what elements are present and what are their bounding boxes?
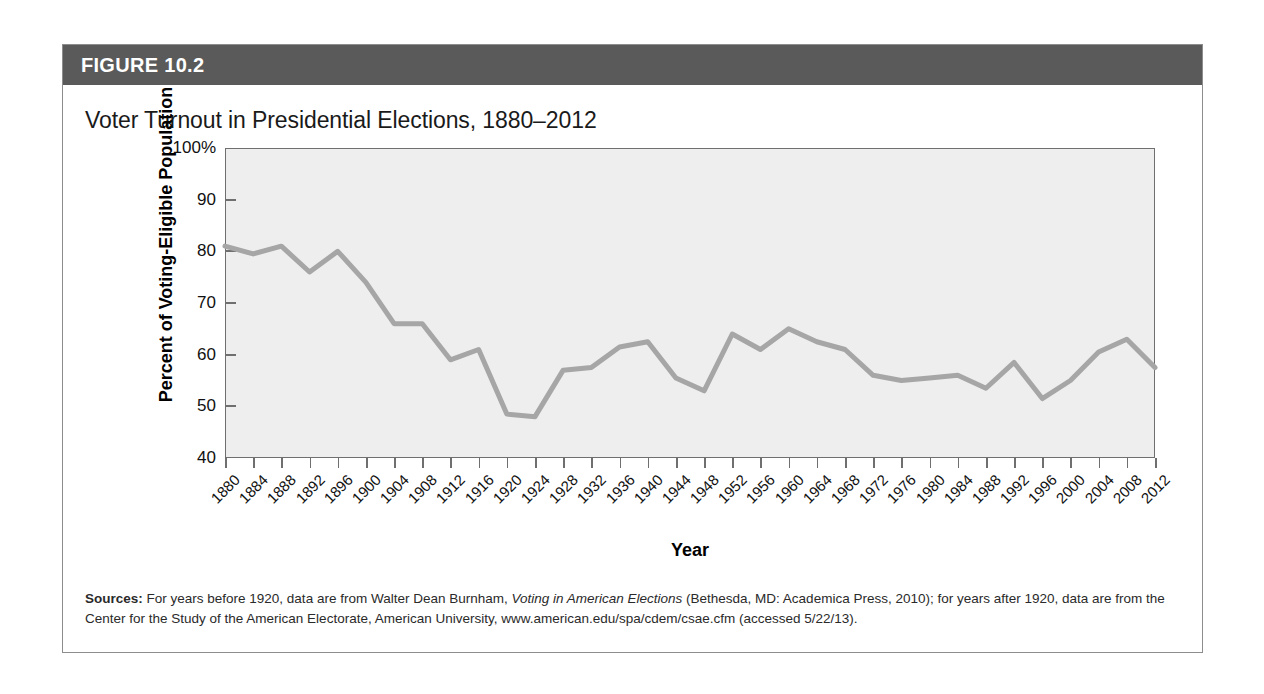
x-tick-mark	[591, 458, 593, 468]
x-tick-label: 1880	[207, 471, 243, 507]
x-tick-label: 1896	[320, 471, 356, 507]
y-tick-label: 80	[197, 241, 216, 261]
x-tick-label: 1884	[236, 471, 272, 507]
x-tick-label: 1976	[884, 471, 920, 507]
x-tick-mark	[1070, 458, 1072, 468]
x-tick-label: 1940	[630, 471, 666, 507]
turnout-line-series	[225, 148, 1155, 458]
x-tick-label: 1996	[1025, 471, 1061, 507]
figure-card: FIGURE 10.2 Voter Turnout in Presidentia…	[62, 44, 1203, 653]
y-tick-label: 90	[197, 190, 216, 210]
source-italic-title: Voting in American Elections	[511, 591, 682, 606]
x-tick-mark	[281, 458, 283, 468]
x-tick-label: 1932	[574, 471, 610, 507]
source-note: Sources: For years before 1920, data are…	[85, 589, 1180, 628]
x-tick-label: 1888	[264, 471, 300, 507]
x-tick-label: 1900	[348, 471, 384, 507]
x-tick-label: 1964	[799, 471, 835, 507]
plot-region: 405060708090100%188018841888189218961900…	[225, 148, 1155, 458]
x-tick-label: 1944	[658, 471, 694, 507]
x-tick-label: 1952	[715, 471, 751, 507]
x-tick-label: 1956	[743, 471, 779, 507]
x-tick-mark	[563, 458, 565, 468]
x-tick-label: 1936	[602, 471, 638, 507]
x-tick-label: 1968	[827, 471, 863, 507]
x-tick-label: 1908	[405, 471, 441, 507]
figure-header-bar: FIGURE 10.2	[63, 45, 1202, 85]
x-tick-label: 2008	[1109, 471, 1145, 507]
y-tick-label: 60	[197, 345, 216, 365]
x-axis-title: Year	[225, 540, 1155, 561]
y-axis-title: Percent of Voting-Eligible Population	[156, 80, 177, 410]
x-tick-mark	[1155, 458, 1157, 468]
x-tick-label: 1992	[996, 471, 1032, 507]
x-tick-mark	[535, 458, 537, 468]
x-tick-mark	[789, 458, 791, 468]
x-tick-label: 1984	[940, 471, 976, 507]
x-tick-mark	[310, 458, 312, 468]
x-tick-mark	[422, 458, 424, 468]
x-tick-mark	[225, 458, 227, 468]
x-tick-label: 1904	[376, 471, 412, 507]
x-tick-mark	[338, 458, 340, 468]
x-tick-label: 1988	[968, 471, 1004, 507]
x-tick-mark	[479, 458, 481, 468]
x-tick-mark	[1099, 458, 1101, 468]
x-tick-mark	[507, 458, 509, 468]
x-tick-mark	[986, 458, 988, 468]
x-tick-mark	[394, 458, 396, 468]
x-tick-label: 1912	[433, 471, 469, 507]
x-tick-mark	[648, 458, 650, 468]
x-tick-label: 1916	[461, 471, 497, 507]
x-tick-mark	[704, 458, 706, 468]
x-tick-label: 1892	[292, 471, 328, 507]
x-tick-mark	[1042, 458, 1044, 468]
x-tick-mark	[253, 458, 255, 468]
x-tick-mark	[1014, 458, 1016, 468]
x-tick-mark	[620, 458, 622, 468]
source-label: Sources:	[85, 591, 143, 606]
x-tick-label: 1924	[517, 471, 553, 507]
figure-number-label: FIGURE 10.2	[81, 54, 204, 77]
x-tick-mark	[958, 458, 960, 468]
y-tick-label: 50	[197, 396, 216, 416]
x-tick-mark	[930, 458, 932, 468]
x-tick-mark	[366, 458, 368, 468]
x-tick-label: 1948	[686, 471, 722, 507]
figure-title: Voter Turnout in Presidential Elections,…	[63, 85, 1202, 134]
x-tick-mark	[450, 458, 452, 468]
x-tick-label: 2000	[1053, 471, 1089, 507]
x-tick-label: 1960	[771, 471, 807, 507]
x-tick-mark	[817, 458, 819, 468]
x-tick-mark	[845, 458, 847, 468]
y-tick-label: 100%	[173, 138, 216, 158]
x-tick-label: 2012	[1137, 471, 1173, 507]
x-tick-label: 1928	[546, 471, 582, 507]
x-tick-mark	[676, 458, 678, 468]
y-tick-label: 40	[197, 448, 216, 468]
x-tick-label: 1972	[856, 471, 892, 507]
x-tick-label: 2004	[1081, 471, 1117, 507]
chart-area: Percent of Voting-Eligible Population 40…	[63, 148, 1202, 578]
x-tick-mark	[873, 458, 875, 468]
x-tick-mark	[732, 458, 734, 468]
x-tick-mark	[901, 458, 903, 468]
y-tick-label: 70	[197, 293, 216, 313]
x-tick-mark	[1127, 458, 1129, 468]
x-tick-label: 1920	[489, 471, 525, 507]
x-tick-label: 1980	[912, 471, 948, 507]
x-tick-mark	[760, 458, 762, 468]
source-text-1: For years before 1920, data are from Wal…	[143, 591, 512, 606]
